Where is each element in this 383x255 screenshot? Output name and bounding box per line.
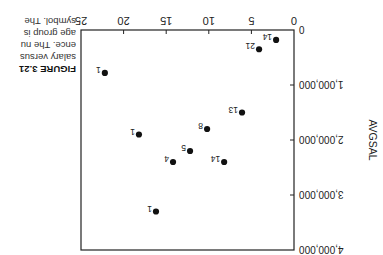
caption-line: age group is xyxy=(0,27,76,39)
point-label: 1 xyxy=(96,65,101,75)
point-label: 14 xyxy=(262,32,272,42)
data-point xyxy=(221,159,227,165)
caption-line: symbol. The xyxy=(0,15,76,27)
caption-line: ence. The nu xyxy=(0,39,76,51)
point-label: 5 xyxy=(181,143,186,153)
point-label: 14 xyxy=(210,154,220,164)
data-point xyxy=(187,148,193,154)
data-point xyxy=(170,159,176,165)
data-point xyxy=(204,126,210,132)
y-tick-label: 0 xyxy=(299,24,305,35)
point-label: 21 xyxy=(245,41,255,51)
y-tick-label: 2,000,000 xyxy=(299,134,344,145)
x-tick-label: 15 xyxy=(160,15,172,27)
point-label: 4 xyxy=(164,154,169,164)
point-label: 1 xyxy=(130,127,135,137)
y-tick-label: 3,000,000 xyxy=(299,189,344,200)
data-point xyxy=(136,131,142,137)
y-axis-label: AVGSAL xyxy=(367,119,379,160)
data-point xyxy=(153,208,159,214)
x-tick-label: 0 xyxy=(291,15,297,27)
x-tick-label: 10 xyxy=(203,15,215,27)
data-point xyxy=(273,37,279,43)
x-tick-label: 25 xyxy=(75,15,87,27)
data-point xyxy=(102,70,108,76)
data-point xyxy=(256,46,262,52)
figure-rotated: 051015202501,000,0002,000,0003,000,0004,… xyxy=(0,0,383,255)
y-tick-label: 1,000,000 xyxy=(299,79,344,90)
x-tick-label: 5 xyxy=(248,15,254,27)
point-label: 8 xyxy=(198,121,203,131)
caption-line: salary versus xyxy=(0,51,76,63)
point-label: 1 xyxy=(147,204,152,214)
x-tick-label: 20 xyxy=(117,15,129,27)
y-tick-label: 4,000,000 xyxy=(299,244,344,255)
data-point xyxy=(239,109,245,115)
figure-caption: FIGURE 3.21 salary versus ence. The nu a… xyxy=(0,15,76,75)
figure-label: FIGURE 3.21 xyxy=(0,63,76,75)
point-label: 13 xyxy=(228,105,238,115)
plot-frame xyxy=(81,30,294,250)
